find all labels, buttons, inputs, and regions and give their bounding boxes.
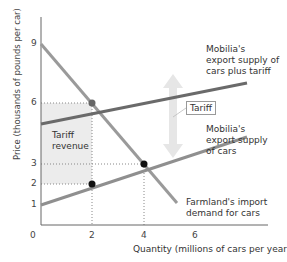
label-line: Mobilia's bbox=[206, 124, 268, 135]
label-line: export supply bbox=[206, 135, 268, 146]
x-axis-label: Quantity (millions of cars per year) bbox=[133, 244, 287, 255]
x-tick-2: 2 bbox=[89, 230, 95, 240]
y-tick-2: 2 bbox=[31, 178, 37, 188]
supply-plus-tariff-label: Mobilia's export supply of cars plus tar… bbox=[206, 44, 279, 77]
x-tick-4: 4 bbox=[141, 230, 147, 240]
label-line: Mobilia's bbox=[206, 44, 279, 55]
tariff-label: Tariff bbox=[186, 101, 216, 115]
demand-label: Farmland's import demand for cars bbox=[186, 197, 267, 219]
x-tick-6: 6 bbox=[192, 230, 198, 240]
tariff-arrow-icon bbox=[163, 74, 183, 158]
y-tick-1: 1 bbox=[31, 199, 37, 209]
label-line: of cars bbox=[206, 146, 268, 157]
x-tick-0: 0 bbox=[30, 230, 36, 240]
y-tick-6: 6 bbox=[31, 97, 37, 107]
point-supply-at-2 bbox=[89, 181, 96, 188]
point-free-trade-equilibrium bbox=[141, 161, 148, 168]
label-line: Farmland's import bbox=[186, 197, 267, 208]
label-line: cars plus tariff bbox=[206, 66, 279, 77]
y-axis-label: Price (thousands of pounds per car) bbox=[12, 8, 22, 160]
tariff-revenue-line-1: Tariff bbox=[52, 130, 89, 141]
tariff-revenue-label: Tariff revenue bbox=[52, 130, 89, 152]
y-tick-9: 9 bbox=[31, 38, 37, 48]
label-line: export supply of bbox=[206, 55, 279, 66]
y-tick-3: 3 bbox=[31, 158, 37, 168]
tariff-revenue-line-2: revenue bbox=[52, 141, 89, 152]
supply-label: Mobilia's export supply of cars bbox=[206, 124, 268, 157]
point-tariff-equilibrium bbox=[89, 100, 96, 107]
label-line: demand for cars bbox=[186, 208, 267, 219]
